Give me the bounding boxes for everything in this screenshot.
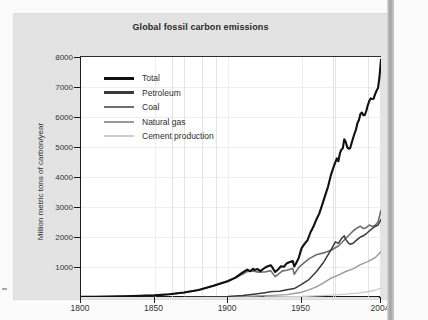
legend-label: Petroleum [142,88,181,98]
series-line [81,210,381,296]
chart-title: Global fossil carbon emissions [13,22,388,32]
y-tick-mark [74,87,80,88]
legend-item-total[interactable]: Total [104,71,214,86]
legend-swatch [104,91,134,94]
x-tick-label: 1950 [278,303,324,313]
legend-swatch [104,121,134,123]
y-tick-mark [74,147,80,148]
chart-figure-panel: Global fossil carbon emissions Million m… [13,13,388,300]
x-tick-label: 1900 [204,303,250,313]
y-tick-label: 3000 [35,203,73,212]
x-tick-label: 2004 [357,303,403,313]
y-tick-mark [74,117,80,118]
y-tick-mark [74,237,80,238]
legend-item-cement-production[interactable]: Cement production [104,129,214,144]
y-tick-label: 2000 [35,233,73,242]
legend-label: Total [142,73,160,83]
y-tick-mark [74,57,80,58]
y-tick-label: 7000 [35,83,73,92]
plot-area: TotalPetroleumCoalNatural gasCement prod… [80,57,380,297]
legend-label: Cement production [142,131,214,141]
x-tick-label: 1850 [131,303,177,313]
legend-label: Coal [142,102,159,112]
legend-swatch [104,135,134,137]
legend-item-natural-gas[interactable]: Natural gas [104,115,214,130]
scan-edge-mark [2,288,7,290]
legend-item-coal[interactable]: Coal [104,100,214,115]
legend-swatch [104,77,134,80]
y-tick-label: 4000 [35,173,73,182]
y-tick-label: 5000 [35,143,73,152]
y-tick-mark [74,267,80,268]
y-tick-label: 8000 [35,53,73,62]
scan-edge-stripe [387,0,394,320]
y-tick-mark [74,177,80,178]
y-tick-label: 1000 [35,263,73,272]
y-tick-label: 6000 [35,113,73,122]
legend-swatch [104,106,134,108]
legend-item-petroleum[interactable]: Petroleum [104,86,214,101]
y-tick-mark [74,207,80,208]
chart-legend: TotalPetroleumCoalNatural gasCement prod… [104,71,214,144]
legend-label: Natural gas [142,117,185,127]
x-tick-label: 1800 [57,303,103,313]
